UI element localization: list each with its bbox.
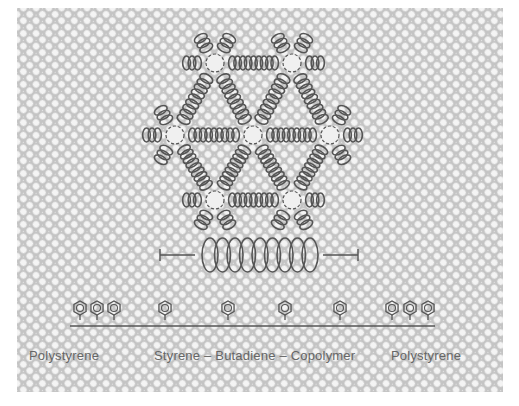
diagram-canvas — [17, 8, 503, 392]
label-polystyrene-left: Polystyrene — [29, 348, 99, 363]
label-copolymer: Styrene – Butadiene – Copolymer — [154, 348, 355, 363]
diagram-panel: Polystyrene Styrene – Butadiene – Copoly… — [17, 8, 503, 392]
label-polystyrene-right: Polystyrene — [391, 348, 461, 363]
